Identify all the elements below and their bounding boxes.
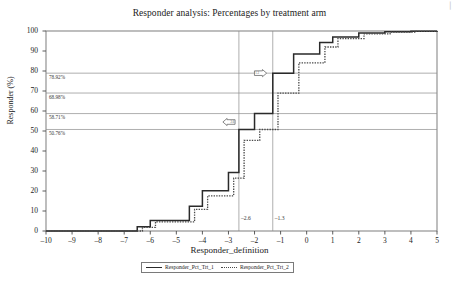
x-tick-label: –9 — [62, 236, 82, 245]
corner-mark: ▏ — [450, 2, 455, 10]
x-tick-label: –7 — [114, 236, 134, 245]
reference-percent-label: 68.98% — [49, 94, 65, 100]
y-tick-label: 50 — [16, 126, 38, 135]
y-tick-label: 100 — [16, 26, 38, 35]
x-tick-label: 4 — [401, 236, 421, 245]
x-tick-label: 3 — [375, 236, 395, 245]
chart-legend: Responder_Pct_Trt_1 Responder_Pct_Trt_2 — [141, 262, 294, 273]
legend-item-trt1: Responder_Pct_Trt_1 — [146, 264, 214, 270]
series-line-1 — [46, 31, 437, 231]
legend-swatch-solid — [146, 267, 162, 268]
y-tick-label: 40 — [16, 146, 38, 155]
left-arrow-marker-label: 2.6 — [230, 120, 234, 124]
reference-percent-label: 50.76% — [49, 130, 65, 136]
legend-label-trt1: Responder_Pct_Trt_1 — [165, 264, 214, 270]
y-tick-label: 0 — [16, 226, 38, 235]
x-tick-label: –4 — [192, 236, 212, 245]
x-tick-label: –10 — [36, 236, 56, 245]
x-tick-label: 0 — [297, 236, 317, 245]
x-tick-label: 5 — [427, 236, 447, 245]
reference-x-label: –1.3 — [275, 215, 285, 221]
chart-figure: Responder analysis: Percentages by treat… — [0, 0, 459, 285]
x-tick-label: –3 — [218, 236, 238, 245]
series-line-2 — [46, 31, 437, 231]
reference-x-label: –2.6 — [241, 215, 251, 221]
legend-item-trt2: Responder_Pct_Trt_2 — [221, 264, 289, 270]
x-tick-label: 1 — [323, 236, 343, 245]
x-tick-label: –8 — [88, 236, 108, 245]
x-tick-label: 2 — [349, 236, 369, 245]
plot-frame — [46, 31, 437, 231]
right-arrow-marker-label: 1.3 — [255, 71, 259, 75]
legend-swatch-dashed — [221, 267, 237, 268]
reference-percent-label: 78.92% — [49, 74, 65, 80]
y-tick-label: 10 — [16, 206, 38, 215]
y-tick-label: 20 — [16, 186, 38, 195]
y-tick-label: 80 — [16, 66, 38, 75]
y-tick-label: 30 — [16, 166, 38, 175]
y-tick-label: 70 — [16, 86, 38, 95]
y-tick-label: 90 — [16, 46, 38, 55]
x-tick-label: –6 — [140, 236, 160, 245]
y-tick-label: 60 — [16, 106, 38, 115]
x-tick-label: –1 — [271, 236, 291, 245]
reference-percent-label: 58.71% — [49, 114, 65, 120]
x-tick-label: –2 — [245, 236, 265, 245]
legend-label-trt2: Responder_Pct_Trt_2 — [240, 264, 289, 270]
x-tick-label: –5 — [166, 236, 186, 245]
